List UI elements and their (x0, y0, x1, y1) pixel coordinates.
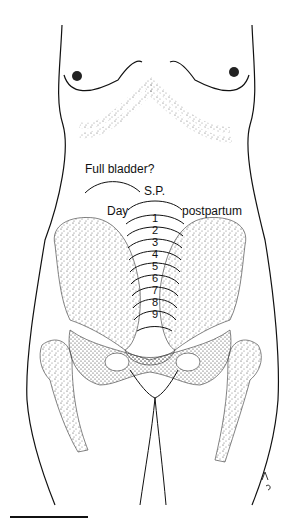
caption-rule (10, 516, 88, 518)
day-marker-3: 3 (149, 237, 161, 248)
full-bladder-arc (85, 182, 140, 193)
day-marker-9: 9 (149, 309, 161, 320)
nipple-left (72, 71, 82, 81)
label-full-bladder: Full bladder? (85, 163, 154, 176)
groin-lines (130, 370, 178, 505)
day-marker-5: 5 (149, 261, 161, 272)
day-marker-2: 2 (149, 225, 161, 236)
day-marker-1: 1 (149, 213, 161, 224)
label-day: Day (107, 205, 128, 218)
label-postpartum: postpartum (182, 205, 242, 218)
postpartum-uterus-diagram: Full bladder? S.P. Day postpartum 1 2 3 … (0, 0, 293, 525)
label-symphysis-pubis: S.P. (144, 185, 165, 198)
rib-margin (80, 80, 232, 140)
day-marker-8: 8 (149, 297, 161, 308)
day-marker-7: 7 (149, 285, 161, 296)
day-marker-6: 6 (149, 273, 161, 284)
day-marker-4: 4 (149, 249, 161, 260)
nipple-right (229, 67, 239, 77)
anatomy-illustration (0, 0, 293, 525)
